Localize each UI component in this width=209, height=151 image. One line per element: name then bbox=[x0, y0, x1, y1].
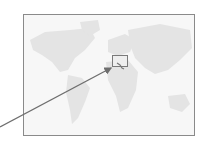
asia bbox=[128, 24, 192, 74]
south-america bbox=[66, 75, 90, 124]
world-map bbox=[0, 0, 209, 151]
australia bbox=[168, 94, 190, 112]
italy-icon bbox=[113, 61, 127, 71]
highlight-box-italy bbox=[112, 55, 128, 67]
north-america bbox=[30, 28, 95, 72]
